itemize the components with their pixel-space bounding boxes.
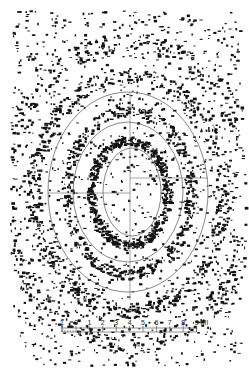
map-figure: 10123456789MI xyxy=(0,0,249,376)
crosshair xyxy=(48,92,208,300)
scale-label: 3 xyxy=(114,319,118,326)
scale-label: 0 xyxy=(74,319,78,326)
middle-ring xyxy=(73,122,183,262)
scale-unit: MI xyxy=(201,319,209,326)
inner-ring xyxy=(103,148,161,236)
scale-label: 4 xyxy=(128,319,132,326)
scale-label: 8 xyxy=(181,319,185,326)
scale-bar: 10123456789MI xyxy=(60,319,208,332)
scale-label: 5 xyxy=(141,319,145,326)
concentric-rings xyxy=(48,92,208,292)
scale-label: 9 xyxy=(195,319,199,326)
scale-label: 7 xyxy=(168,319,172,326)
scale-label: 6 xyxy=(154,319,158,326)
ring-overlay: 10123456789MI xyxy=(0,0,249,376)
scale-label: 2 xyxy=(101,319,105,326)
scale-label: 1 xyxy=(87,319,91,326)
scale-label: 1 xyxy=(60,319,64,326)
